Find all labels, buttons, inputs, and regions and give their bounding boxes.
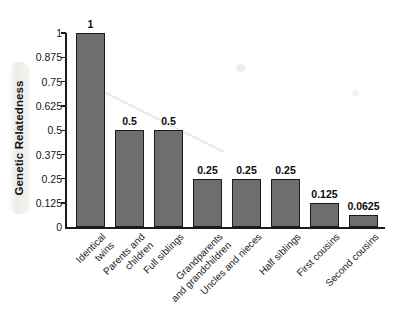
bar-group: 0.25: [271, 179, 300, 228]
bar-value-label: 0.25: [275, 164, 295, 176]
bar: [76, 33, 105, 227]
y-axis-tick-label: 0.75: [28, 76, 62, 88]
y-axis-tick-label: 0.625: [28, 100, 62, 112]
bar: [232, 179, 261, 228]
bar-group: 0.125: [310, 203, 339, 227]
y-axis-tick-label: 0.375: [28, 149, 62, 161]
bar-value-label: 1: [88, 18, 94, 30]
bar-group: 0.25: [193, 179, 222, 228]
bars-layer: 10.50.50.250.250.250.1250.0625: [65, 33, 385, 229]
bar-group: 0.25: [232, 179, 261, 228]
bar-value-label: 0.5: [122, 115, 137, 127]
bar: [154, 130, 183, 227]
y-axis-tick-label-group: 00.1250.250.3750.50.6250.750.8751: [26, 0, 62, 325]
y-axis-tick-label: 0: [28, 221, 62, 233]
bar-value-label: 0.5: [161, 115, 176, 127]
bar-group: 0.0625: [349, 215, 378, 227]
y-axis-title: Genetic Relatedness: [13, 80, 25, 195]
bar: [271, 179, 300, 228]
y-axis-tick-label: 0.125: [28, 197, 62, 209]
y-axis-tick-label: 0.875: [28, 51, 62, 63]
plot-area: 10.50.50.250.250.250.1250.0625: [65, 33, 385, 229]
y-axis-tick-label: 0.5: [28, 124, 62, 136]
bar-group: 0.5: [154, 130, 183, 227]
bar-value-label: 0.25: [197, 164, 217, 176]
bar-group: 1: [76, 33, 105, 227]
y-axis-tick-label: 0.25: [28, 173, 62, 185]
bar: [310, 203, 339, 227]
bar: [349, 215, 378, 227]
bar-value-label: 0.0625: [347, 200, 379, 212]
genetic-relatedness-bar-chart: Genetic Relatedness 00.1250.250.3750.50.…: [0, 0, 399, 325]
bar: [193, 179, 222, 228]
bar: [115, 130, 144, 227]
bar-group: 0.5: [115, 130, 144, 227]
y-axis-tick-label: 1: [28, 27, 62, 39]
bar-value-label: 0.125: [311, 188, 337, 200]
bar-value-label: 0.25: [236, 164, 256, 176]
x-axis-category-label-group: IdenticaltwinsParents andchildrenFull si…: [65, 231, 399, 325]
